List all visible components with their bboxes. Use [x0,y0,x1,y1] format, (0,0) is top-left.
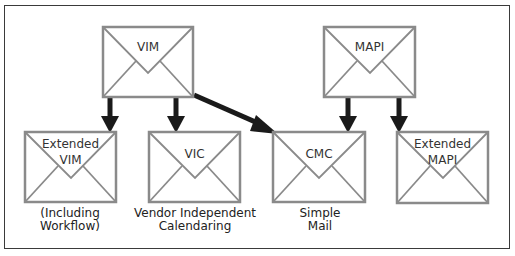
label-extended-vim-line2: VIM [25,153,116,167]
label-cmc: CMC [273,147,365,161]
label-vim: VIM [103,40,193,54]
caption-extended-vim-line2: Workflow) [10,220,130,233]
envelope-vim [103,27,193,97]
label-extended-vim-line1: Extended [25,137,116,151]
edge-mapi-ext-mapi [390,98,408,133]
envelope-cmc [273,132,365,202]
envelope-mapi [324,27,415,97]
label-extended-mapi-line2: MAPI [397,153,488,167]
caption-cmc-line2: Mail [280,220,360,233]
edge-vim-vic [167,98,185,133]
edge-vim-cmc [194,95,278,134]
caption-vic-line2: Calendaring [130,220,260,233]
label-vic: VIC [149,147,240,161]
label-mapi: MAPI [324,40,415,54]
envelope-vic [149,132,240,202]
label-extended-mapi-line1: Extended [397,137,488,151]
edge-mapi-cmc [339,98,357,133]
edge-vim-ext-vim [101,98,119,133]
